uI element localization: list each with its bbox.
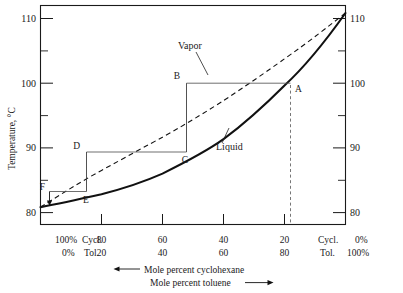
x-tick-label-cycl-20: 20 — [280, 235, 290, 245]
y-tick-label-left-110: 110 — [21, 13, 36, 24]
x-corner-label-right-bottom: Tol. — [320, 248, 335, 258]
x-tick-label-cycl-0: 0% — [355, 235, 368, 245]
point-label-e: E — [83, 195, 89, 205]
y-tick-label-right-80: 80 — [350, 207, 360, 218]
y-axis-right-ticks — [333, 19, 346, 213]
x-tick-label-tol-80: 80 — [280, 248, 290, 258]
x-axis-bottom-ticks — [102, 214, 285, 225]
y-tick-label-left-90: 90 — [26, 142, 36, 153]
x-tick-label-tol-40: 40 — [158, 248, 168, 258]
point-label-c: C — [182, 155, 188, 165]
y-tick-label-left-80: 80 — [26, 207, 36, 218]
y-tick-label-left-100: 100 — [21, 78, 36, 89]
point-label-d: D — [73, 141, 80, 151]
vapor-curve-label: Vapor — [178, 40, 203, 51]
y-tick-label-right-100: 100 — [350, 78, 365, 89]
phase-diagram-chart: 110 100 90 80 110 100 90 80 Temperature,… — [0, 0, 403, 293]
arrow-left-icon — [114, 266, 120, 271]
x-corner-label-right-top: Cycl. — [318, 235, 338, 245]
x-axis-title-toluene: Mole percent toluene — [150, 278, 231, 288]
x-tick-label-tol-20: 20 — [97, 248, 107, 258]
y-tick-label-right-110: 110 — [350, 13, 365, 24]
x-tick-label-cycl-40: 40 — [219, 235, 229, 245]
x-axis-title-cyclohexane-group: Mole percent cyclohexane — [114, 265, 245, 275]
x-axis-title-cyclohexane: Mole percent cyclohexane — [144, 265, 244, 275]
x-tick-label-tol-60: 60 — [219, 248, 229, 258]
x-tick-label-cycl-80: 80 — [97, 235, 107, 245]
x-tick-label-tol-0: 0% — [62, 248, 75, 258]
liquid-curve-label: Liquid — [216, 141, 243, 152]
x-tick-label-cycl-100: 100% — [55, 235, 77, 245]
x-tick-label-tol-100: 100% — [347, 248, 369, 258]
point-label-b: B — [174, 71, 180, 81]
vapor-label-leader — [196, 52, 208, 75]
chart-page: 110 100 90 80 110 100 90 80 Temperature,… — [0, 0, 403, 293]
point-label-f: F — [40, 182, 45, 192]
y-tick-label-right-90: 90 — [350, 142, 360, 153]
point-label-a: A — [295, 84, 302, 94]
arrow-right-icon — [268, 280, 274, 285]
x-tick-label-cycl-60: 60 — [158, 235, 168, 245]
y-axis-title: Temperature, °C — [7, 107, 17, 170]
x-axis-title-toluene-group: Mole percent toluene — [150, 278, 274, 288]
